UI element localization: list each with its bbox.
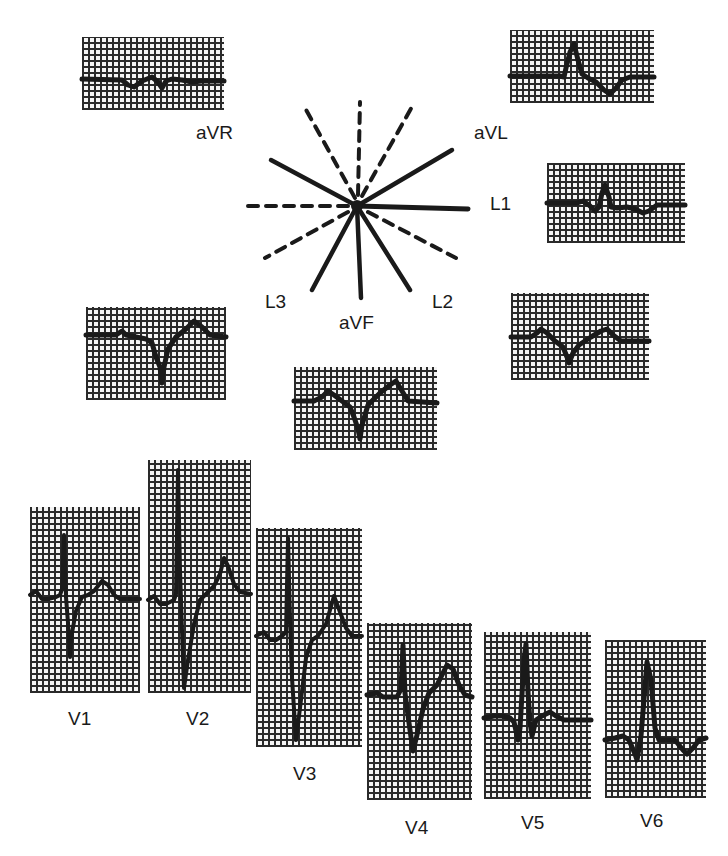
axis-l3 <box>312 206 357 290</box>
ecg-trace-v1 <box>30 507 140 693</box>
ecg-panel-avl <box>510 30 654 103</box>
lead-label-avr: aVR <box>196 122 233 144</box>
ecg-panel-v1 <box>30 507 140 693</box>
axis-avf <box>357 206 361 298</box>
ecg-trace-v6 <box>605 640 706 798</box>
ecg-trace-avr <box>82 37 224 110</box>
ecg-panel-l2 <box>511 293 649 380</box>
lead-label-v5: V5 <box>521 812 544 834</box>
axis-dashed-lower-right <box>368 212 456 258</box>
ecg-panel-v3 <box>256 528 362 747</box>
ecg-trace-l2 <box>511 293 649 380</box>
axis-label-avf: aVF <box>339 312 374 334</box>
axis-label-l2: L2 <box>432 291 453 313</box>
axis-label-l3: L3 <box>265 291 286 313</box>
lead-label-v4: V4 <box>405 817 428 839</box>
ecg-panel-avr <box>82 37 224 110</box>
ecg-panel-v4 <box>367 623 472 800</box>
ecg-panel-avf <box>294 367 437 450</box>
ecg-trace-avl <box>510 30 654 103</box>
ecg-trace-l3 <box>86 307 226 400</box>
ecg-panel-v6 <box>605 640 706 798</box>
ecg-panel-l1 <box>547 163 685 243</box>
ecg-trace-l1 <box>547 163 685 243</box>
lead-label-v3: V3 <box>293 763 316 785</box>
lead-label-v1: V1 <box>68 708 91 730</box>
axis-dashed-lower-left <box>265 212 348 258</box>
ecg-trace-avf <box>294 367 437 450</box>
axis-dashed-vertical <box>358 102 360 195</box>
lead-label-v6: V6 <box>640 810 663 832</box>
ecg-panel-v5 <box>484 632 591 799</box>
ecg-trace-v3 <box>256 528 362 747</box>
ecg-panel-l3 <box>86 307 226 400</box>
lead-label-v2: V2 <box>186 708 209 730</box>
ecg-trace-v2 <box>148 460 251 693</box>
ecg-trace-v5 <box>484 632 591 799</box>
ecg-panel-v2 <box>148 460 251 693</box>
ecg-trace-v4 <box>367 623 472 800</box>
axis-avr <box>271 160 357 206</box>
axis-l1 <box>357 206 468 209</box>
axis-dashed-upper-right <box>362 105 413 196</box>
